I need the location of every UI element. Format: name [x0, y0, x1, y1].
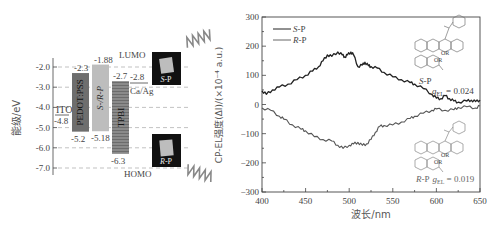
energy-bar-label: S-/R-P — [96, 85, 106, 109]
svg-text:OR: OR — [441, 50, 449, 56]
chart-legend: S-P R-P — [273, 24, 307, 45]
y-tick-label: 300 — [246, 12, 260, 22]
ito-label: ITO — [56, 104, 72, 115]
cathode-value: -2.8 — [130, 72, 145, 82]
homo-value: -5.2 — [71, 134, 85, 144]
y-tick-label: 100 — [246, 70, 260, 80]
y-tick-label: 200 — [246, 41, 260, 51]
y-tick-label: −300 — [240, 187, 259, 197]
energy-bars: PEDOT:PSS-2.3-5.2S-/R-P-1.88-5.18TPBI-2.… — [71, 55, 129, 166]
light-wave-icon-bottom — [185, 164, 214, 182]
lumo-value: -2.3 — [74, 63, 89, 73]
energy-tick-label: -6.0 — [36, 143, 51, 153]
lumo-value: -2.7 — [113, 71, 128, 81]
energy-tick-label: -5.0 — [36, 123, 51, 133]
molecule-structure-r-p: OR OR — [415, 121, 465, 172]
photo-r-p-label: -P — [165, 157, 173, 166]
photo-r-p: R-P — [152, 134, 181, 167]
lumo-value: -1.88 — [94, 55, 113, 65]
svg-text:OR: OR — [441, 152, 449, 158]
annotation-s-p: S-P — [419, 76, 432, 86]
annotation-r-p: R-PgEL = 0.019 — [415, 174, 475, 185]
homo-value: -6.3 — [111, 156, 126, 166]
cpel-chart: CP-EL强度(ΔI)/(×10⁻⁴ a.u.) 波长/nm 400450500… — [213, 12, 487, 220]
x-tick-label: 650 — [473, 196, 487, 206]
homo-value: -5.18 — [91, 133, 110, 143]
photo-s-p-label: -P — [164, 75, 172, 84]
molecule-structure-s-p: OR OR — [415, 15, 465, 70]
energy-axis-label: 能级/eV — [10, 100, 22, 137]
energy-tick-label: -3.0 — [36, 82, 51, 92]
chart-x-axis-label: 波长/nm — [351, 208, 390, 220]
svg-text:OR: OR — [434, 159, 442, 165]
legend-label-r-p: R-P — [292, 35, 307, 45]
x-tick-label: 450 — [299, 196, 313, 206]
energy-diagram: 能级/eV -2.0-3.0-4.0-5.0-6.0-7.0 ITO -4.8 … — [10, 29, 214, 182]
energy-bar-label: TPBI — [116, 108, 126, 128]
y-tick-label: −200 — [240, 158, 259, 168]
y-tick-label: 0 — [255, 100, 260, 110]
figure: 能级/eV -2.0-3.0-4.0-5.0-6.0-7.0 ITO -4.8 … — [0, 0, 500, 233]
annotation-s-p-gel: gEL = 0.024 — [432, 86, 474, 97]
chart-series — [262, 52, 480, 148]
energy-bar-label: PEDOT:PSS — [76, 79, 86, 125]
x-tick-label: 500 — [342, 196, 356, 206]
energy-tick-label: -7.0 — [36, 163, 51, 173]
svg-text:R-P: R-P — [159, 157, 173, 166]
ito-value: -4.8 — [54, 116, 69, 126]
chart-y-axis-label: CP-EL强度(ΔI)/(×10⁻⁴ a.u.) — [213, 47, 224, 164]
x-tick-label: 550 — [386, 196, 400, 206]
x-tick-label: 400 — [255, 196, 269, 206]
y-tick-label: −100 — [240, 129, 259, 139]
homo-label: HOMO — [124, 169, 152, 179]
svg-text:S-P: S-P — [160, 75, 172, 84]
photo-s-p: S-P — [152, 52, 181, 85]
cathode-label: Ca/Ag — [130, 86, 154, 96]
lumo-label: LUMO — [119, 50, 146, 60]
x-tick-label: 600 — [430, 196, 444, 206]
energy-tick-label: -2.0 — [36, 62, 51, 72]
energy-tick-label: -4.0 — [36, 102, 51, 112]
svg-text:OR: OR — [434, 57, 442, 63]
light-wave-icon-top — [184, 29, 213, 48]
legend-label-s-p: S-P — [293, 24, 306, 34]
